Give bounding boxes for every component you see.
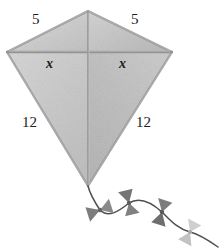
- label-x-left: x: [46, 57, 53, 71]
- label-lower-left-side: 12: [22, 115, 37, 130]
- tail-bow-2: [118, 188, 140, 216]
- kite-figure: 5 5 x x 12 12: [0, 0, 221, 248]
- label-upper-left-side: 5: [32, 12, 40, 27]
- kite-body: [7, 11, 172, 186]
- tail-bow-4: [177, 219, 202, 247]
- label-upper-right-side: 5: [131, 12, 139, 27]
- kite-tail: [88, 186, 218, 247]
- tail-string-segment-5: [190, 232, 218, 247]
- tail-string-segment-1: [88, 186, 100, 210]
- tail-bow-1: [85, 199, 114, 222]
- tail-bow-3: [150, 198, 173, 227]
- label-x-right: x: [119, 57, 126, 71]
- tail-string-segment-4: [162, 212, 190, 232]
- label-lower-right-side: 12: [136, 115, 151, 130]
